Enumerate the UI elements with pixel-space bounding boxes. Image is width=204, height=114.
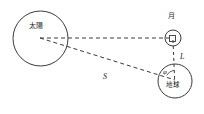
angle-label: φ	[163, 69, 167, 76]
right-angle-marker-icon	[170, 36, 176, 42]
astronomy-diagram: 太陽 月 地球 S L φ	[0, 0, 204, 114]
angle-arc-phi	[167, 70, 175, 75]
moon-label: 月	[168, 13, 175, 20]
moon-distance-label: L	[180, 53, 184, 61]
sun-earth-line	[40, 38, 175, 80]
earth-label: 地球	[166, 82, 180, 89]
sun-distance-label: S	[103, 73, 107, 81]
sun-label: 太陽	[29, 23, 43, 30]
